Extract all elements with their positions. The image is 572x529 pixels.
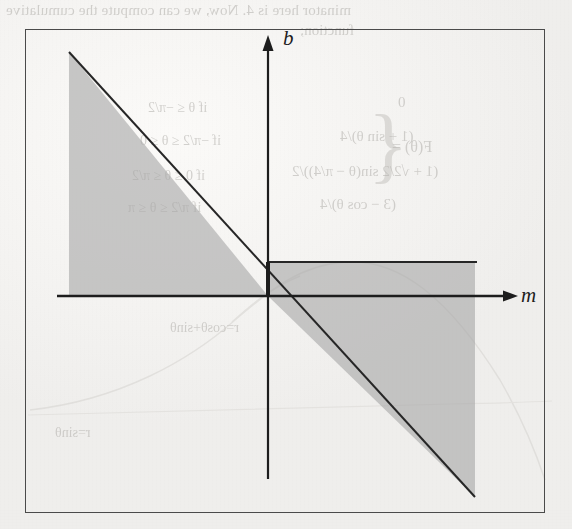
shaded-region-lower-right-triangle: [268, 296, 475, 497]
shaded-region-upper-right-band: [268, 262, 475, 296]
shaded-region-upper-left-triangle: [69, 52, 268, 296]
axis-label-m: m: [521, 283, 536, 308]
parameter-space-plot: [25, 29, 545, 513]
m-axis-arrowhead: [503, 291, 518, 302]
b-axis-arrowhead: [263, 35, 274, 51]
axis-label-b: b: [283, 26, 294, 51]
